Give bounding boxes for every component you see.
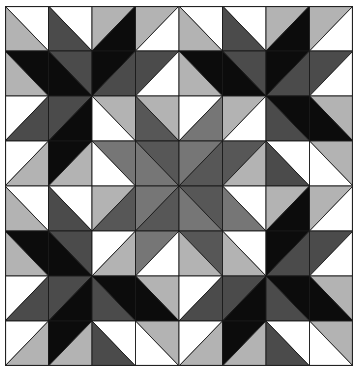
quilt-block [5,6,353,366]
